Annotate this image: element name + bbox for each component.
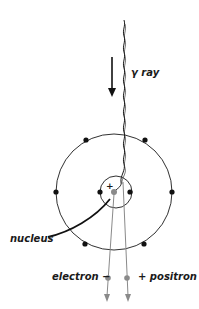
positron-label: + positron (138, 272, 197, 282)
nucleus-label: nucleus (10, 234, 53, 244)
direction-arrow-icon (108, 57, 116, 97)
pair-production-diagram (0, 0, 199, 309)
nucleus-charge-sign: + (106, 182, 114, 191)
electron-label: electron − (52, 272, 110, 282)
gamma-ray-wave (116, 20, 125, 190)
electron-track (104, 194, 114, 302)
gamma-ray-label: γ ray (131, 68, 159, 78)
